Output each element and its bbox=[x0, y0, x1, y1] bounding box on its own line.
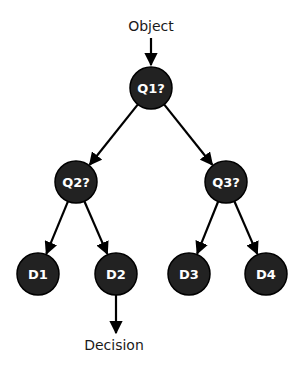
node-q3: Q3? bbox=[205, 161, 247, 203]
decision-tree-diagram: Object Decision Q1?Q2?Q3?D1D2D3D4 bbox=[0, 0, 302, 367]
input-label: Object bbox=[128, 18, 174, 34]
edge-q1-q2 bbox=[90, 104, 138, 164]
edge-q2-d2 bbox=[84, 201, 107, 254]
node-d1: D1 bbox=[17, 253, 59, 295]
node-label: Q2? bbox=[62, 175, 90, 190]
edge-q3-d4 bbox=[234, 201, 257, 254]
node-d2: D2 bbox=[95, 253, 137, 295]
node-d4: D4 bbox=[245, 253, 287, 295]
node-q2: Q2? bbox=[55, 161, 97, 203]
nodes: Q1?Q2?Q3?D1D2D3D4 bbox=[17, 67, 287, 295]
edge-q1-q3 bbox=[164, 104, 212, 164]
node-d3: D3 bbox=[168, 253, 210, 295]
edge-q3-d3 bbox=[197, 201, 218, 253]
node-label: D3 bbox=[179, 267, 199, 282]
node-label: Q3? bbox=[212, 175, 240, 190]
node-q1: Q1? bbox=[130, 67, 172, 109]
node-label: D2 bbox=[106, 267, 126, 282]
node-label: Q1? bbox=[137, 81, 165, 96]
node-label: D1 bbox=[28, 267, 48, 282]
output-label: Decision bbox=[84, 337, 144, 353]
edge-q2-d1 bbox=[46, 201, 68, 253]
node-label: D4 bbox=[256, 267, 276, 282]
